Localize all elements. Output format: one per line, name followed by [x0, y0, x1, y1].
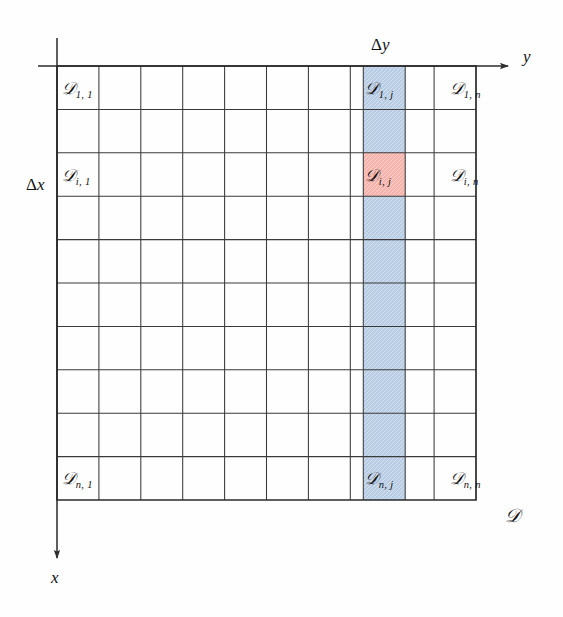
cell-symbol: 𝒟 — [62, 469, 76, 488]
domain-label: 𝒟 — [505, 506, 520, 525]
cell-subscript: n, j — [379, 479, 394, 490]
cell-label: 𝒟1, j — [365, 80, 393, 97]
cell-label: 𝒟i, j — [365, 167, 391, 184]
cell-label: 𝒟1, n — [450, 80, 481, 97]
diagram-canvas: Δy Δx y x 𝒟 𝒟1, 1𝒟1, j𝒟1, n𝒟i, 1𝒟i, j𝒟i,… — [0, 0, 563, 617]
cell-symbol: 𝒟 — [365, 166, 379, 185]
cell-label: 𝒟n, n — [450, 470, 481, 487]
cell-subscript: i, j — [379, 176, 391, 187]
cell-symbol: 𝒟 — [450, 469, 464, 488]
cell-symbol: 𝒟 — [365, 469, 379, 488]
cell-label: 𝒟1, 1 — [62, 80, 93, 97]
x-axis-label: x — [51, 569, 59, 586]
delta-x-variable: x — [37, 175, 45, 194]
cell-symbol: 𝒟 — [450, 166, 464, 185]
delta-x-symbol: Δ — [26, 175, 37, 194]
cell-subscript: n, n — [464, 479, 481, 490]
cell-label: 𝒟n, 1 — [62, 470, 93, 487]
delta-y-symbol: Δ — [371, 35, 382, 54]
cell-subscript: 1, 1 — [76, 89, 93, 100]
cell-label: 𝒟i, 1 — [62, 167, 90, 184]
delta-y-variable: y — [382, 35, 390, 54]
cell-subscript: n, 1 — [76, 479, 93, 490]
y-axis-label: y — [523, 48, 531, 65]
cell-label: 𝒟i, n — [450, 167, 478, 184]
cell-symbol: 𝒟 — [450, 79, 464, 98]
grid-lines — [57, 66, 476, 500]
cell-subscript: 1, j — [379, 89, 394, 100]
delta-x-label: Δx — [26, 176, 44, 193]
cell-symbol: 𝒟 — [62, 166, 76, 185]
cell-symbol: 𝒟 — [365, 79, 379, 98]
cell-symbol: 𝒟 — [62, 79, 76, 98]
delta-y-label: Δy — [371, 36, 389, 53]
cell-subscript: 1, n — [464, 89, 481, 100]
cell-label: 𝒟n, j — [365, 470, 393, 487]
cell-subscript: i, 1 — [76, 176, 91, 187]
cell-subscript: i, n — [464, 176, 479, 187]
